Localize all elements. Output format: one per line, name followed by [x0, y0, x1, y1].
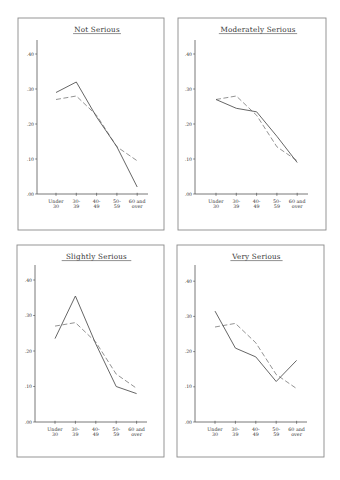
y-tick-label: .30 — [27, 87, 34, 92]
x-tick-label: over — [291, 432, 302, 437]
x-tick-label: 40- — [93, 199, 101, 204]
charts-canvas: Not Serious.00.10.20.30.40Under3030-3940… — [0, 0, 340, 480]
y-tick-label: .20 — [185, 122, 192, 127]
y-tick-label: .30 — [185, 87, 192, 92]
y-tick-label: .10 — [185, 157, 192, 162]
chart-not-serious: Not Serious.00.10.20.30.40Under3030-3940… — [18, 18, 164, 230]
chart-frame — [177, 245, 324, 457]
x-tick-label: 40- — [252, 427, 260, 432]
y-tick-label: .10 — [27, 157, 34, 162]
x-tick-label: Under — [207, 427, 223, 432]
y-tick-label: .10 — [185, 384, 192, 389]
y-tick-label: .20 — [185, 349, 192, 354]
x-tick-label: Under — [48, 199, 64, 204]
x-tick-label: 39 — [233, 204, 239, 209]
chart-very-serious: Very Serious.00.10.20.30.40Under3030-394… — [177, 245, 324, 457]
x-tick-label: 50- — [272, 427, 280, 432]
y-tick-label: .40 — [185, 279, 192, 284]
y-tick-label: .30 — [25, 313, 32, 318]
chart-title: Not Serious — [74, 25, 120, 34]
x-tick-label: 50- — [273, 199, 281, 204]
x-tick-label: 30 — [212, 432, 218, 437]
y-tick-label: .40 — [185, 52, 192, 57]
series-line-category — [55, 296, 137, 394]
chart-title: Slightly Serious — [66, 252, 127, 261]
chart-title: Very Serious — [231, 252, 281, 261]
x-tick-label: 30 — [213, 204, 219, 209]
x-tick-label: 59 — [113, 432, 119, 437]
x-tick-label: 59 — [114, 204, 120, 209]
y-tick-label: .20 — [25, 349, 32, 354]
chart-moderately-serious: Moderately Serious.00.10.20.30.40Under30… — [178, 18, 326, 230]
x-tick-label: 60 and — [128, 427, 145, 432]
x-tick-label: 60 and — [129, 199, 146, 204]
x-tick-label: over — [292, 204, 303, 209]
x-tick-label: 30 — [52, 432, 58, 437]
x-tick-label: 40- — [253, 199, 261, 204]
x-tick-label: 59 — [274, 204, 280, 209]
y-tick-label: .40 — [27, 52, 34, 57]
x-tick-label: 49 — [254, 204, 260, 209]
x-tick-label: over — [132, 204, 143, 209]
x-tick-label: 30- — [72, 427, 80, 432]
x-tick-label: 60 and — [289, 199, 306, 204]
y-tick-label: .00 — [185, 420, 192, 425]
y-tick-label: .30 — [185, 314, 192, 319]
x-tick-label: 39 — [72, 432, 78, 437]
series-line-category — [216, 100, 297, 163]
x-tick-label: over — [131, 432, 142, 437]
chart-grid: Not Serious.00.10.20.30.40Under3030-3940… — [0, 0, 340, 480]
x-tick-label: 30- — [232, 199, 240, 204]
x-tick-label: 49 — [94, 204, 100, 209]
x-tick-label: 40- — [92, 427, 100, 432]
chart-frame — [17, 245, 164, 457]
x-tick-label: 49 — [253, 432, 259, 437]
x-tick-label: Under — [208, 199, 224, 204]
x-tick-label: 49 — [93, 432, 99, 437]
x-tick-label: 39 — [73, 204, 79, 209]
chart-title: Moderately Serious — [220, 25, 295, 34]
y-tick-label: .10 — [25, 384, 32, 389]
x-tick-label: Under — [47, 427, 63, 432]
y-tick-label: .40 — [25, 278, 32, 283]
x-tick-label: 30- — [72, 199, 80, 204]
x-tick-label: 50- — [113, 199, 121, 204]
series-line-overall — [56, 96, 137, 161]
x-tick-label: 60 and — [288, 427, 305, 432]
x-tick-label: 39 — [232, 432, 238, 437]
x-tick-label: 59 — [273, 432, 279, 437]
y-tick-label: .00 — [27, 192, 34, 197]
series-line-category — [215, 311, 297, 381]
x-tick-label: 50- — [112, 427, 120, 432]
series-line-overall — [216, 96, 297, 161]
y-tick-label: .00 — [185, 192, 192, 197]
x-tick-label: 30- — [232, 427, 240, 432]
x-tick-label: 30 — [53, 204, 59, 209]
y-tick-label: .20 — [27, 122, 34, 127]
chart-slightly-serious: Slightly Serious.00.10.20.30.40Under3030… — [17, 245, 164, 457]
y-tick-label: .00 — [25, 420, 32, 425]
series-line-overall — [55, 323, 137, 389]
